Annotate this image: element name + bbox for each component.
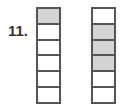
left-fraction-bar <box>36 7 61 104</box>
shaded-cell <box>38 9 59 25</box>
unshaded-cell <box>38 41 59 57</box>
right-fraction-bar <box>91 7 116 104</box>
unshaded-cell <box>93 88 114 102</box>
shaded-cell <box>93 56 114 72</box>
problem-number-label: 11. <box>8 23 28 38</box>
unshaded-cell <box>38 25 59 41</box>
shaded-cell <box>93 25 114 41</box>
unshaded-cell <box>93 9 114 25</box>
unshaded-cell <box>38 72 59 88</box>
shaded-cell <box>93 41 114 57</box>
unshaded-cell <box>38 56 59 72</box>
unshaded-cell <box>93 72 114 88</box>
unshaded-cell <box>38 88 59 102</box>
